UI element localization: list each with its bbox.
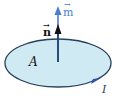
- current-loop-diagram: [0, 0, 118, 96]
- moment-arrowhead-icon: [55, 6, 62, 15]
- area-label: A: [29, 56, 38, 68]
- normal-vector-label: →n: [43, 27, 51, 38]
- normal-arrowhead-icon: [55, 24, 62, 34]
- current-label: I: [102, 84, 106, 95]
- moment-vector-label: →m: [63, 7, 73, 18]
